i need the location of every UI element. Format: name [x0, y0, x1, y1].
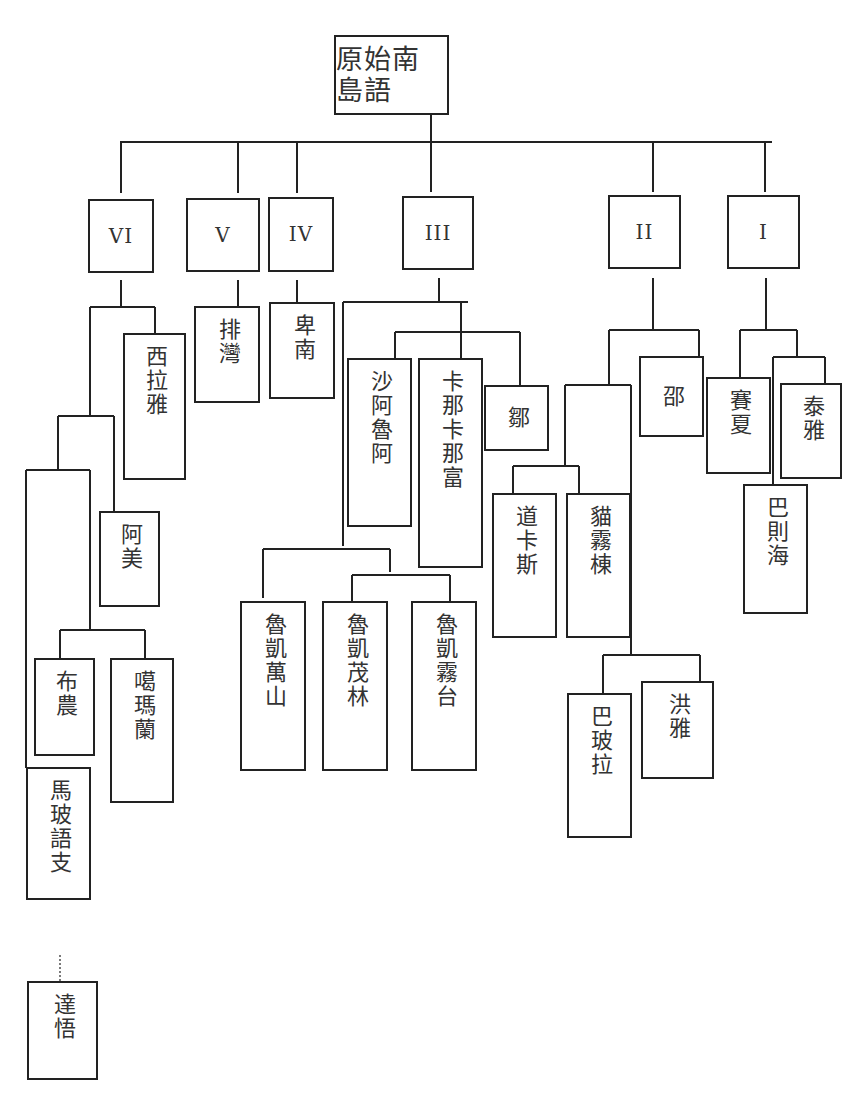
- leaf-label: 邵: [656, 385, 687, 409]
- leaf-label: 泰雅: [796, 395, 827, 443]
- group-label: III: [425, 218, 452, 249]
- leaf-node-pazeh: 巴則海: [743, 484, 808, 614]
- leaf-node-bunun: 布農: [34, 658, 95, 756]
- leaf-label: 魯凱茂林: [340, 613, 371, 709]
- leaf-node-kavalan: 噶瑪蘭: [110, 658, 174, 803]
- root-node-proto-austronesian: 原始南島語: [334, 35, 449, 115]
- leaf-node-yami: 達悟: [27, 981, 98, 1080]
- leaf-label: 洪雅: [662, 693, 693, 741]
- leaf-node-rukai-budai: 魯凱霧台: [411, 601, 477, 771]
- leaf-node-paiwan: 排灣: [194, 306, 260, 403]
- group-label: V: [215, 220, 230, 251]
- root-label: 原始南島語: [336, 44, 447, 106]
- leaf-label: 卑南: [287, 314, 318, 362]
- leaf-node-rukai-mantauran: 魯凱萬山: [240, 601, 306, 771]
- leaf-node-rukai-maolin: 魯凱茂林: [322, 601, 388, 771]
- leaf-node-saaroa: 沙阿魯阿: [347, 358, 412, 527]
- leaf-label: 阿美: [114, 523, 145, 571]
- leaf-label: 道卡斯: [509, 505, 540, 577]
- leaf-node-papora: 巴玻拉: [567, 693, 632, 838]
- leaf-node-babuza: 貓霧棟: [566, 493, 631, 638]
- group-label: IV: [289, 219, 313, 250]
- leaf-label: 沙阿魯阿: [364, 370, 395, 466]
- leaf-node-hoanya: 洪雅: [641, 681, 714, 779]
- leaf-node-saisiyat: 賽夏: [706, 377, 771, 474]
- leaf-label: 達悟: [47, 993, 78, 1041]
- leaf-label: 巴則海: [760, 496, 791, 568]
- leaf-node-amis: 阿美: [99, 511, 160, 607]
- leaf-node-puyuma: 卑南: [269, 302, 335, 399]
- leaf-label: 排灣: [212, 318, 243, 366]
- leaf-label: 貓霧棟: [583, 505, 614, 577]
- leaf-label: 魯凱霧台: [429, 613, 460, 709]
- leaf-label: 魯凱萬山: [258, 613, 289, 709]
- leaf-node-kanakanavu: 卡那卡那富: [418, 358, 483, 568]
- leaf-label: 西拉雅: [139, 345, 170, 417]
- group-node-II: II: [608, 195, 681, 269]
- leaf-label: 鄒: [501, 406, 532, 430]
- group-node-IV: IV: [268, 197, 334, 272]
- group-node-V: V: [186, 198, 260, 272]
- leaf-node-atayal: 泰雅: [780, 383, 842, 479]
- leaf-label: 噶瑪蘭: [127, 670, 158, 742]
- leaf-label: 賽夏: [723, 389, 754, 437]
- group-node-I: I: [727, 195, 800, 269]
- leaf-node-siraya: 西拉雅: [123, 333, 186, 480]
- group-label: II: [636, 217, 654, 248]
- leaf-label: 布農: [49, 670, 80, 718]
- leaf-label: 巴玻拉: [584, 705, 615, 777]
- group-node-III: III: [402, 196, 474, 270]
- leaf-node-mabotaai-branch: 馬玻語支: [26, 767, 91, 900]
- leaf-node-tsou: 鄒: [484, 385, 549, 451]
- group-node-VI: VI: [88, 199, 154, 273]
- group-label: I: [759, 217, 768, 248]
- leaf-node-taokas: 道卡斯: [492, 493, 557, 638]
- leaf-node-thao: 邵: [639, 356, 704, 437]
- leaf-label: 卡那卡那富: [435, 370, 466, 490]
- group-label: VI: [109, 221, 133, 252]
- leaf-label: 馬玻語支: [43, 779, 74, 875]
